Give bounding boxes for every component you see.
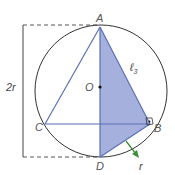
label-side: ℓ3: [129, 61, 138, 75]
edge-ac: [45, 27, 100, 124]
label-d: D: [96, 160, 104, 172]
label-a: A: [95, 12, 103, 24]
shaded-triangle-abd: [100, 27, 150, 157]
label-2r: 2r: [5, 81, 17, 93]
label-r: r: [139, 160, 144, 172]
label-o: O: [85, 81, 94, 93]
center-dot-icon: [98, 85, 101, 88]
diagram-canvas: A B C D O 2r ℓ3 r: [0, 0, 175, 175]
right-angle-dot-icon: [149, 121, 151, 123]
label-b: B: [154, 122, 161, 134]
label-c: C: [35, 121, 43, 133]
